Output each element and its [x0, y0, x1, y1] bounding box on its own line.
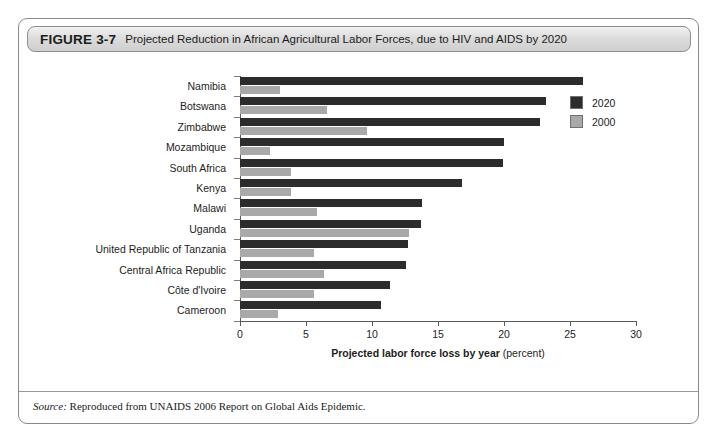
x-axis-tick-label: 20	[489, 328, 519, 340]
category-label: South Africa	[27, 158, 233, 178]
chart-plot-region: NamibiaBotswanaZimbabweMozambiqueSouth A…	[27, 55, 691, 385]
category-label: Kenya	[27, 178, 233, 198]
bar-2020	[240, 97, 546, 105]
bar-group	[240, 300, 636, 320]
x-axis-tick-label: 15	[423, 328, 453, 340]
x-axis-title-unit: (percent)	[503, 347, 545, 359]
bar-2000	[240, 310, 278, 318]
bar-group	[240, 158, 636, 178]
category-label: Namibia	[27, 76, 233, 96]
category-label: United Republic of Tanzania	[27, 239, 233, 259]
x-axis-tick-label: 0	[225, 328, 255, 340]
x-axis-tick	[240, 321, 241, 326]
x-axis-tick-label: 25	[555, 328, 585, 340]
category-label: Mozambique	[27, 137, 233, 157]
bar-group	[240, 198, 636, 218]
source-text: Reproduced from UNAIDS 2006 Report on Gl…	[70, 400, 366, 412]
x-axis-tick	[306, 321, 307, 326]
bar-2000	[240, 168, 291, 176]
bar-group	[240, 280, 636, 300]
bar-2020	[240, 179, 462, 187]
x-axis-tick	[372, 321, 373, 326]
x-axis-tick	[438, 321, 439, 326]
category-label: Uganda	[27, 219, 233, 239]
category-label: Côte d'Ivoire	[27, 280, 233, 300]
legend-item: 2020	[570, 93, 615, 112]
source-note: Source: Reproduced from UNAIDS 2006 Repo…	[33, 400, 366, 412]
category-label: Central Africa Republic	[27, 260, 233, 280]
bar-2020	[240, 159, 503, 167]
figure-number: FIGURE 3-7	[40, 32, 116, 47]
x-axis-tick-label: 10	[357, 328, 387, 340]
x-axis-tick	[504, 321, 505, 326]
bar-2000	[240, 147, 270, 155]
figure-frame: FIGURE 3-7 Projected Reduction in Africa…	[18, 18, 699, 424]
bar-2000	[240, 127, 367, 135]
legend-item: 2000	[570, 112, 615, 131]
x-axis-tick-label: 30	[621, 328, 651, 340]
x-axis-tick	[570, 321, 571, 326]
bar-2000	[240, 188, 291, 196]
x-axis-tick-label: 5	[291, 328, 321, 340]
bar-group	[240, 137, 636, 157]
bar-2000	[240, 208, 317, 216]
figure-header: FIGURE 3-7 Projected Reduction in Africa…	[27, 26, 691, 52]
bar-2020	[240, 199, 422, 207]
category-label: Zimbabwe	[27, 117, 233, 137]
bar-2020	[240, 220, 421, 228]
bar-group	[240, 178, 636, 198]
bar-2000	[240, 290, 314, 298]
legend-swatch-icon	[570, 96, 583, 109]
bar-2020	[240, 118, 540, 126]
bar-2020	[240, 301, 381, 309]
legend-label: 2020	[592, 97, 615, 109]
legend-swatch-icon	[570, 115, 583, 128]
source-keyword: Source:	[33, 400, 67, 412]
bar-2000	[240, 249, 314, 257]
bar-group	[240, 219, 636, 239]
x-axis-tick	[636, 321, 637, 326]
legend-label: 2000	[592, 116, 615, 128]
chart-legend: 20202000	[570, 93, 615, 131]
source-divider	[19, 391, 698, 392]
bar-group	[240, 260, 636, 280]
bar-2020	[240, 240, 408, 248]
x-axis-title-strong: Projected labor force loss by year	[331, 347, 500, 359]
bar-group	[240, 239, 636, 259]
bar-2000	[240, 270, 324, 278]
x-axis-title: Projected labor force loss by year (perc…	[240, 347, 636, 359]
category-label: Botswana	[27, 96, 233, 116]
bar-2020	[240, 281, 390, 289]
bar-2000	[240, 229, 409, 237]
category-label: Cameroon	[27, 300, 233, 320]
bar-2020	[240, 77, 583, 85]
bar-2020	[240, 138, 504, 146]
bar-2000	[240, 86, 280, 94]
bar-2000	[240, 106, 327, 114]
category-axis-labels: NamibiaBotswanaZimbabweMozambiqueSouth A…	[27, 76, 233, 321]
bar-2020	[240, 261, 406, 269]
figure-caption: Projected Reduction in African Agricultu…	[125, 33, 567, 45]
category-label: Malawi	[27, 198, 233, 218]
